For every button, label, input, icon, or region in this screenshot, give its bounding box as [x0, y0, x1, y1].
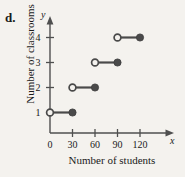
closed-point-90-3	[114, 59, 121, 66]
closed-point-30-1	[69, 109, 76, 116]
y-ticklabel-2: 2	[36, 82, 41, 93]
closed-endpoints	[69, 34, 144, 116]
y-ticklabel-3: 3	[36, 57, 41, 68]
closed-point-60-2	[91, 84, 98, 91]
open-point-60-3	[92, 59, 99, 66]
part-label: d.	[5, 10, 15, 26]
y-ticklabel-1: 1	[36, 107, 41, 118]
y-axis-variable-label: y	[40, 9, 46, 20]
open-point-0-1	[47, 109, 54, 116]
x-axis: x 0 30 60 90 120	[48, 129, 176, 150]
open-point-90-4	[114, 34, 121, 41]
x-ticklabel-90: 90	[113, 139, 123, 150]
x-axis-title: Number of students	[42, 154, 182, 166]
figure-container: d. Number of classrooms Number of studen…	[0, 0, 185, 177]
y-axis-title: Number of classrooms	[24, 0, 36, 114]
closed-point-120-4	[136, 34, 143, 41]
y-ticklabel-4: 4	[36, 32, 41, 43]
y-axis-arrow-icon	[47, 16, 54, 25]
step-segments	[50, 38, 140, 113]
x-ticklabel-120: 120	[133, 139, 148, 150]
x-ticklabel-0: 0	[48, 139, 53, 150]
x-axis-variable-label: x	[169, 135, 175, 146]
open-point-30-2	[69, 84, 76, 91]
open-endpoints	[47, 34, 121, 116]
x-ticklabel-60: 60	[90, 139, 100, 150]
x-ticklabel-30: 30	[68, 139, 78, 150]
